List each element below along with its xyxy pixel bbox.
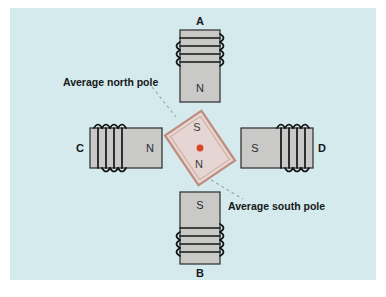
electromagnet-b-pole-label: S	[196, 199, 203, 211]
rotor-magnet-south-label: S	[193, 121, 200, 133]
electromagnet-c-pole-label: N	[146, 142, 154, 154]
electromagnet-rotor-diagram: N A S B	[0, 0, 386, 297]
electromagnet-d[interactable]: S D	[241, 125, 326, 172]
diagram-stage: N A S B	[0, 0, 386, 297]
electromagnet-a[interactable]: N A	[177, 15, 224, 102]
electromagnet-b-label: B	[196, 267, 204, 279]
electromagnet-c-label: C	[76, 142, 84, 154]
electromagnet-b[interactable]: S B	[177, 192, 224, 279]
electromagnet-d-pole-label: S	[251, 142, 258, 154]
electromagnet-d-label: D	[318, 142, 326, 154]
callout-north-label: Average north pole	[63, 76, 158, 88]
electromagnet-a-label: A	[196, 15, 204, 27]
leader-line-north	[152, 87, 176, 117]
rotor-magnet-north-label: N	[195, 158, 203, 170]
electromagnet-c[interactable]: N C	[76, 125, 162, 172]
callout-south-label: Average south pole	[228, 200, 325, 212]
electromagnet-a-pole-label: N	[196, 82, 204, 94]
rotor-pivot-dot	[197, 145, 204, 152]
